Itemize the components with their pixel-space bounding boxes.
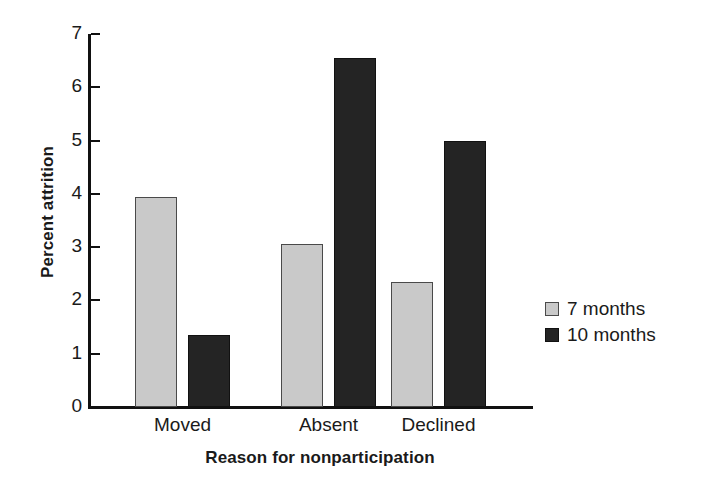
bar-declined-7-months	[391, 282, 433, 407]
y-axis-tick-label-text: 7	[56, 23, 82, 42]
x-axis-category-label: Declined	[369, 414, 509, 436]
y-axis-tick-label-text: 0	[56, 396, 82, 415]
legend-item-label: 7 months	[567, 298, 645, 320]
y-axis-tick-label-text: 3	[56, 236, 82, 255]
bar-moved-10-months	[188, 335, 230, 407]
legend-item: 10 months	[545, 322, 656, 348]
y-axis-tick-label: 6	[52, 76, 82, 96]
y-axis-tick-label: 4	[52, 183, 82, 203]
y-axis-tick-label: 7	[52, 23, 82, 43]
y-axis-tick-label-text: 4	[56, 183, 82, 202]
black-swatch	[545, 328, 559, 342]
plot-area	[91, 34, 533, 407]
y-axis-tick-label-text: 1	[56, 343, 82, 362]
legend-item-label: 10 months	[567, 324, 656, 346]
y-axis-tick-label: 5	[52, 130, 82, 150]
x-axis-category-label: Moved	[113, 414, 253, 436]
chart-legend: 7 months10 months	[545, 296, 656, 348]
light-gray-swatch	[545, 302, 559, 316]
bar-chart-figure: Percent attrition 01234567 MovedAbsentDe…	[0, 0, 708, 481]
y-axis-tick-label: 3	[52, 236, 82, 256]
y-axis-tick-label: 2	[52, 289, 82, 309]
y-axis-tick-label-text: 2	[56, 289, 82, 308]
y-axis-tick-label-text: 5	[56, 130, 82, 149]
y-axis-tick-label: 0	[52, 396, 82, 416]
y-axis-tick-label-text: 6	[56, 76, 82, 95]
y-axis-tick-label: 1	[52, 343, 82, 363]
x-axis-title: Reason for nonparticipation	[90, 448, 550, 468]
bar-absent-10-months	[334, 58, 376, 407]
bar-absent-7-months	[281, 244, 323, 407]
bar-moved-7-months	[135, 197, 177, 407]
bar-declined-10-months	[444, 141, 486, 407]
legend-item: 7 months	[545, 296, 656, 322]
